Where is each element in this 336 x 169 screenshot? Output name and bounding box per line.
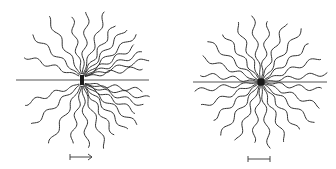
chain [84,85,128,129]
chain [261,21,269,79]
chain [195,82,258,91]
left-panel [16,12,150,160]
chain [49,16,80,74]
chain [261,85,270,148]
chain [200,74,258,82]
chain [49,86,81,144]
chain [85,59,149,76]
chain [264,82,322,90]
chain [252,16,261,79]
left-core [80,75,84,85]
chain [25,84,79,105]
right-panel [193,16,327,162]
chain [84,86,115,135]
chain [84,34,136,75]
chain [24,58,79,76]
chain [253,85,261,143]
diagram-figure [0,0,336,169]
chain [263,84,300,129]
chain [223,35,260,80]
chain [214,84,259,121]
left-scale-arrow [70,154,92,160]
chain [263,44,308,80]
right-core [258,79,264,85]
right-scale-bar [248,156,270,162]
chain [72,17,82,74]
chain [264,73,327,82]
chain [33,35,80,76]
chain [85,84,135,113]
chain [84,30,127,75]
